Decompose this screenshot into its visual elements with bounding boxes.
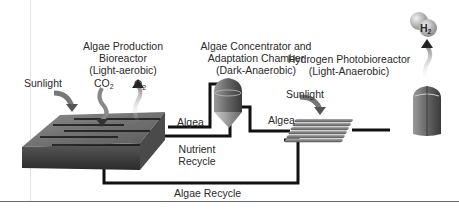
production-bioreactor-tray xyxy=(22,112,165,170)
production-bioreactor-label: Algae Production Bioreactor (Light-aerob… xyxy=(72,40,174,76)
h2-label: H2 xyxy=(420,22,432,38)
o2-label: O2 xyxy=(134,78,146,94)
h2-arrow xyxy=(425,46,431,82)
algea-label-left: Algea xyxy=(177,116,204,128)
production-label-line2: Bioreactor xyxy=(72,52,174,64)
algea-label-right: Algea xyxy=(268,114,295,126)
co2-label: CO2 xyxy=(94,77,114,93)
concentrator-label-line1: Algae Concentrator and xyxy=(186,40,326,52)
production-label-line3: (Light-aerobic) xyxy=(72,64,174,76)
sunlight-label-right: Sunlight xyxy=(286,88,324,100)
process-diagram: Algae Production Bioreactor (Light-aerob… xyxy=(0,0,459,213)
nutrient-recycle-label: Nutrient Recycle xyxy=(172,143,222,167)
diagram-graphics xyxy=(0,0,459,213)
hydrogen-photobioreactor xyxy=(413,86,441,136)
photobioreactor-label-line2: (Light-Anaerobic) xyxy=(284,65,414,77)
sunlight-label-left: Sunlight xyxy=(24,77,62,89)
concentrator-tank xyxy=(214,78,242,128)
algae-recycle-label: Algae Recycle xyxy=(174,187,241,199)
photobioreactor-label: Hydrogen Photobioreactor (Light-Anaerobi… xyxy=(284,53,414,77)
production-label-line1: Algae Production xyxy=(72,40,174,52)
photobioreactor-label-line1: Hydrogen Photobioreactor xyxy=(284,53,414,65)
